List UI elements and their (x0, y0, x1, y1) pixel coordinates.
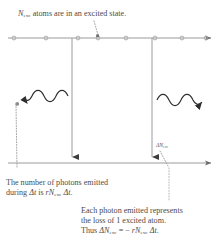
lr-pre: Thus (81, 226, 99, 235)
photon-wave-left (23, 90, 68, 101)
caption-top: Nexc atoms are in an excited state. (18, 9, 126, 20)
lr-delta-n: ΔN (99, 226, 109, 235)
delta-n-subscript: exc (163, 145, 168, 149)
leader-line-top-caption (94, 21, 99, 37)
lr-n-subscript: exc (140, 230, 147, 235)
caption-top-text: atoms are in an excited state. (31, 9, 127, 18)
lr-delta-n-subscript: exc (109, 230, 116, 235)
top-timeline-axis (8, 36, 211, 40)
caption-lower-left-line2: during Δt is rNexc Δt. (6, 188, 108, 199)
caption-lower-right-line2: the loss of 1 excited atom. (81, 216, 183, 226)
caption-top-symbol-subscript: exc (23, 13, 30, 18)
lr-end: . (157, 226, 159, 235)
delta-n-annotation: ΔNexc (156, 142, 168, 149)
delta-n-symbol: ΔN (156, 142, 163, 148)
caption-lower-left: The number of photons emitted during Δt … (6, 178, 108, 198)
caption-lower-left-line1: The number of photons emitted (6, 178, 108, 188)
leader-line-delta-n (160, 151, 169, 200)
lr-equals: = − (117, 226, 132, 235)
leader-line-photon-left (16, 104, 17, 167)
ll-pre: during (6, 188, 29, 197)
lr-delta-t: Δt (148, 226, 157, 235)
caption-lower-right-line3: Thus ΔNexc = − rNexc Δt. (81, 226, 183, 237)
caption-lower-right: Each photon emitted represents the loss … (81, 206, 183, 236)
photon-wave-right (157, 94, 202, 105)
figure-canvas: Nexc atoms are in an excited state. ΔNex… (0, 0, 221, 251)
ll-mid: is (36, 188, 45, 197)
ll-end: . (70, 188, 72, 197)
caption-lower-right-line1: Each photon emitted represents (81, 206, 183, 216)
